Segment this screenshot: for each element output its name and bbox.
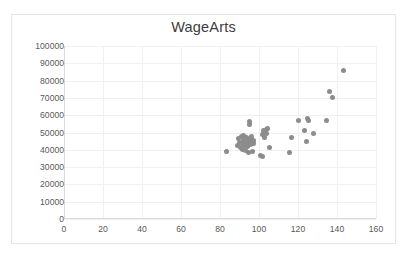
gridline-vertical: [103, 46, 104, 219]
scatter-point: [265, 126, 270, 131]
gridline-vertical: [376, 46, 377, 219]
y-tick-label: 60000: [4, 110, 64, 120]
x-axis-tick-labels: 020406080100120140160: [64, 224, 376, 240]
x-tick-label: 60: [161, 224, 201, 234]
y-tick-label: 90000: [4, 58, 64, 68]
chart-title: WageArts: [12, 19, 395, 35]
x-tick-label: 40: [122, 224, 162, 234]
y-tick-label: 80000: [4, 76, 64, 86]
x-tick-label: 0: [44, 224, 84, 234]
y-tick-label: 10000: [4, 197, 64, 207]
scatter-point: [251, 141, 256, 146]
gridline-horizontal: [64, 219, 376, 220]
y-tick-label: 20000: [4, 179, 64, 189]
x-tick-label: 20: [83, 224, 123, 234]
x-tick-label: 160: [356, 224, 396, 234]
scatter-point: [287, 150, 292, 155]
y-axis-tick-labels: 0100002000030000400005000060000700008000…: [0, 46, 64, 219]
y-tick-label: 40000: [4, 145, 64, 155]
scatter-point: [267, 145, 272, 150]
gridline-vertical: [181, 46, 182, 219]
scatter-point: [289, 135, 294, 140]
x-axis-line: [64, 218, 376, 219]
scatter-point: [327, 89, 332, 94]
scatter-point: [296, 118, 301, 123]
y-tick-label: 30000: [4, 162, 64, 172]
scatter-point: [311, 131, 316, 136]
scatter-point: [262, 135, 267, 140]
scatter-point: [341, 68, 346, 73]
scatter-point: [306, 118, 311, 123]
plot-area: [64, 46, 376, 219]
chart-container: WageArts 0100002000030000400005000060000…: [11, 14, 396, 244]
x-tick-label: 140: [317, 224, 357, 234]
gridline-vertical: [220, 46, 221, 219]
scatter-point: [250, 149, 255, 154]
scatter-point: [330, 95, 335, 100]
scatter-point: [302, 128, 307, 133]
y-tick-label: 50000: [4, 128, 64, 138]
scatter-point: [247, 122, 252, 127]
x-tick-label: 80: [200, 224, 240, 234]
gridline-vertical: [337, 46, 338, 219]
gridline-vertical: [142, 46, 143, 219]
scatter-point: [264, 131, 269, 136]
scatter-point: [304, 139, 309, 144]
gridline-vertical: [298, 46, 299, 219]
x-tick-label: 100: [239, 224, 279, 234]
y-tick-label: 70000: [4, 93, 64, 103]
scatter-point: [260, 154, 265, 159]
scatter-point: [324, 118, 329, 123]
x-tick-label: 120: [278, 224, 318, 234]
y-axis-line: [64, 46, 65, 219]
scatter-point: [224, 149, 229, 154]
y-tick-label: 100000: [4, 41, 64, 51]
y-tick-label: 0: [4, 214, 64, 224]
